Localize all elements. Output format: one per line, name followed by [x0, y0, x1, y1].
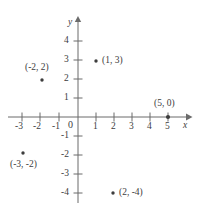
y-axis — [75, 16, 81, 203]
y-tick-label-1: 1 — [64, 93, 69, 103]
point-label-1-3: (1, 3) — [102, 56, 123, 66]
y-tick-label-neg2: -2 — [61, 150, 69, 160]
point-5-0 — [166, 115, 170, 119]
x-tick-label-5: 5 — [165, 122, 170, 132]
point-neg2-2 — [40, 78, 43, 81]
y-tick-label-neg1: -1 — [61, 131, 69, 141]
x-tick-label-neg1: -1 — [52, 122, 60, 132]
y-tick-label-neg4: -4 — [61, 188, 69, 198]
x-tick-label-2: 2 — [111, 122, 116, 132]
x-axis-label: x — [183, 121, 187, 131]
origin-label: 0 — [68, 120, 73, 130]
point-2-neg4 — [111, 191, 114, 194]
x-tick-label-neg3: -3 — [15, 122, 23, 132]
y-tick-label-4: 4 — [64, 36, 69, 46]
point-label-neg3-neg2: (-3, -2) — [10, 160, 37, 170]
y-tick-label-2: 2 — [64, 74, 69, 84]
x-axis — [8, 114, 193, 121]
x-tick-label-1: 1 — [93, 122, 98, 132]
x-tick-label-4: 4 — [147, 122, 152, 132]
point-label-2-neg4: (2, -4) — [119, 188, 143, 198]
point-neg3-neg2 — [21, 151, 24, 154]
x-tick-label-3: 3 — [129, 122, 134, 132]
coordinate-plane-figure: y x 0 -3 -2 -1 1 2 3 4 5 4 3 2 1 -1 -2 -… — [0, 0, 199, 208]
point-label-neg2-2: (-2, 2) — [25, 63, 49, 73]
point-1-3 — [94, 59, 97, 62]
y-tick-label-neg3: -3 — [61, 169, 69, 179]
y-tick-label-3: 3 — [64, 55, 69, 65]
point-label-5-0: (5, 0) — [154, 99, 175, 109]
x-tick-label-neg2: -2 — [33, 122, 41, 132]
y-axis-label: y — [68, 18, 72, 28]
